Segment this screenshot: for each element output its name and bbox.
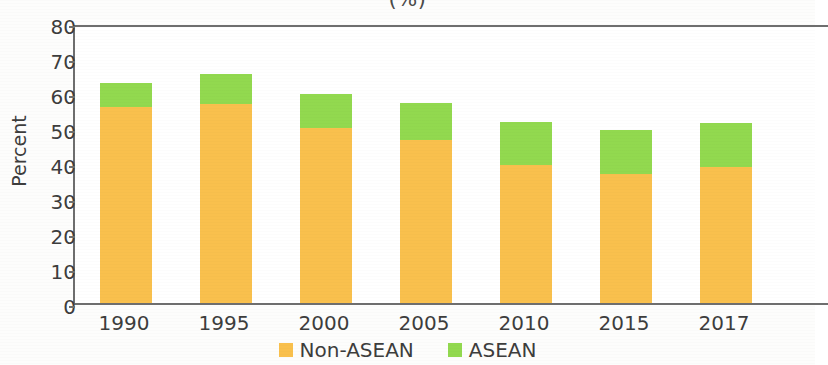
- bar-group-2017[interactable]: [700, 123, 752, 303]
- bar-segment-non-asean-2000[interactable]: [300, 128, 352, 303]
- x-tick-label-1990: 1990: [69, 311, 179, 335]
- bar-group-1990[interactable]: [100, 83, 152, 304]
- y-tick-label-10: 10: [20, 260, 76, 284]
- plot-area: 01020304050607080: [73, 25, 828, 305]
- legend-label: Non-ASEAN: [300, 338, 414, 362]
- bar-segment-non-asean-1990[interactable]: [100, 107, 152, 303]
- bar-segment-asean-2015[interactable]: [600, 130, 652, 173]
- chart-legend: Non-ASEANASEAN: [0, 338, 815, 362]
- bar-segment-asean-2017[interactable]: [700, 123, 752, 166]
- bar-group-2000[interactable]: [300, 94, 352, 303]
- legend-swatch-icon-0: [279, 343, 293, 357]
- x-tick-label-2010: 2010: [469, 311, 579, 335]
- bar-segment-non-asean-2015[interactable]: [600, 174, 652, 304]
- y-tick-mark-50: [69, 131, 75, 133]
- legend-label: ASEAN: [469, 338, 537, 362]
- legend-item-asean[interactable]: ASEAN: [448, 338, 537, 362]
- y-tick-mark-0: [69, 306, 75, 308]
- y-tick-mark-10: [69, 271, 75, 273]
- legend-item-non-asean[interactable]: Non-ASEAN: [279, 338, 414, 362]
- bar-segment-non-asean-1995[interactable]: [200, 104, 252, 304]
- x-tick-label-2005: 2005: [369, 311, 479, 335]
- y-tick-mark-20: [69, 236, 75, 238]
- bar-group-2010[interactable]: [500, 122, 552, 303]
- x-tick-label-2017: 2017: [669, 311, 779, 335]
- bar-segment-asean-1990[interactable]: [100, 83, 152, 108]
- bar-segment-asean-2010[interactable]: [500, 122, 552, 165]
- y-tick-mark-40: [69, 166, 75, 168]
- y-tick-mark-70: [69, 61, 75, 63]
- bar-group-2015[interactable]: [600, 130, 652, 303]
- y-tick-label-0: 0: [20, 295, 76, 319]
- chart-title: (%): [0, 0, 815, 11]
- y-tick-label-50: 50: [20, 120, 76, 144]
- bar-segment-asean-2005[interactable]: [400, 103, 452, 140]
- y-tick-mark-60: [69, 96, 75, 98]
- x-tick-label-2015: 2015: [569, 311, 679, 335]
- bar-segment-asean-1995[interactable]: [200, 74, 252, 104]
- y-tick-label-30: 30: [20, 190, 76, 214]
- x-tick-label-2000: 2000: [269, 311, 379, 335]
- y-tick-mark-30: [69, 201, 75, 203]
- y-tick-label-20: 20: [20, 225, 76, 249]
- y-tick-mark-80: [69, 26, 75, 28]
- bar-group-2005[interactable]: [400, 103, 452, 303]
- y-tick-label-40: 40: [20, 155, 76, 179]
- legend-swatch-icon-1: [448, 343, 462, 357]
- y-tick-label-60: 60: [20, 85, 76, 109]
- y-tick-label-70: 70: [20, 50, 76, 74]
- y-tick-label-80: 80: [20, 15, 76, 39]
- bar-group-1995[interactable]: [200, 74, 252, 303]
- bar-segment-non-asean-2005[interactable]: [400, 140, 452, 303]
- bar-segment-non-asean-2017[interactable]: [700, 167, 752, 304]
- bar-segment-asean-2000[interactable]: [300, 94, 352, 128]
- bar-segment-non-asean-2010[interactable]: [500, 165, 552, 303]
- x-tick-label-1995: 1995: [169, 311, 279, 335]
